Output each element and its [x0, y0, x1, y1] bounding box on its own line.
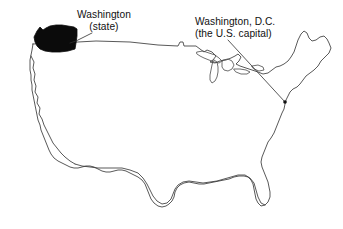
- dc-leader-line: [228, 40, 285, 102]
- lake-michigan: [210, 60, 218, 83]
- washington-dc-label-line2: (the U.S. capital): [195, 28, 275, 40]
- washington-state-shape: [34, 25, 77, 52]
- lake-huron: [222, 59, 234, 71]
- west-coast-detail: [31, 56, 75, 164]
- washington-state-label-line1: Washington: [77, 9, 131, 21]
- washington-dc-label-line1: Washington, D.C.: [195, 16, 275, 28]
- lake-erie: [234, 69, 250, 74]
- washington-state-label-line2: (state): [77, 21, 131, 33]
- us-map-svg: [0, 0, 343, 229]
- dc-marker-dot: [283, 100, 287, 104]
- map-figure: Washington (state) Washington, D.C. (the…: [0, 0, 343, 229]
- washington-dc-label: Washington, D.C. (the U.S. capital): [195, 16, 275, 39]
- us-outline-path: [30, 31, 331, 207]
- washington-state-label: Washington (state): [77, 9, 131, 32]
- southern-border-detail: [75, 164, 265, 205]
- great-lakes-group: [197, 51, 264, 83]
- lake-superior: [197, 51, 222, 63]
